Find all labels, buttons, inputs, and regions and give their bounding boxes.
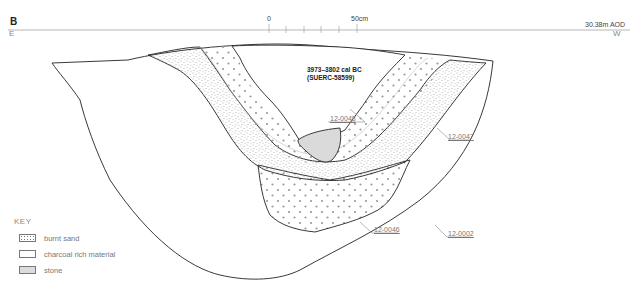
scale-bar xyxy=(269,24,357,33)
stone-swatch-icon xyxy=(19,266,36,274)
section-label: B xyxy=(10,16,17,27)
key-item-stone: stone xyxy=(19,265,62,275)
key-title: KEY xyxy=(14,217,32,226)
context-label-12-0002: 12-0002 xyxy=(448,230,474,237)
scale-end-label: 50cm xyxy=(351,15,368,22)
context-label-12-0048: 12-0048 xyxy=(330,115,356,122)
lab-code: (SUERC-58599) xyxy=(307,74,362,82)
context-label-12-0046: 12-0046 xyxy=(374,226,400,233)
direction-right: W xyxy=(613,29,621,38)
datum-label: 30.38m AOD xyxy=(585,21,625,28)
section-drawing: B E W 0 50cm 30.38m AOD 3973–3802 cal BC… xyxy=(0,0,632,292)
direction-left: E xyxy=(9,29,14,38)
scale-start-label: 0 xyxy=(267,15,271,22)
charcoal-swatch-icon xyxy=(19,250,36,258)
key-label: stone xyxy=(44,266,62,275)
burnt-sand-swatch-icon xyxy=(19,234,36,242)
key-item-burnt-sand: burnt sand xyxy=(19,233,79,243)
radiocarbon-date: 3973–3802 cal BC (SUERC-58599) xyxy=(307,66,362,82)
date-range: 3973–3802 cal BC xyxy=(307,66,362,74)
key-label: burnt sand xyxy=(44,234,79,243)
context-label-12-0047: 12-0047 xyxy=(448,133,474,140)
key-label: charcoal rich material xyxy=(44,250,115,259)
key-item-charcoal: charcoal rich material xyxy=(19,249,115,259)
